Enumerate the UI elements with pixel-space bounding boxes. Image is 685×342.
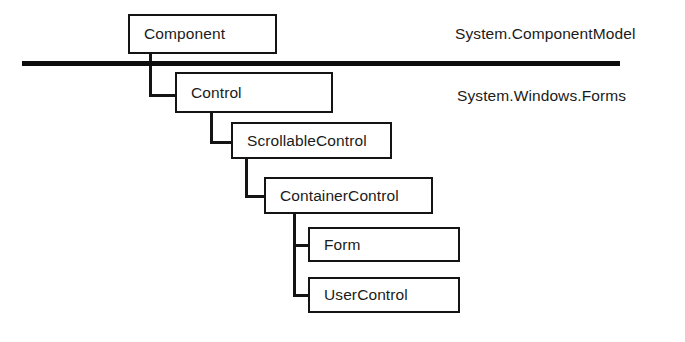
class-label-form: Form (310, 237, 361, 253)
namespace-label-windows-forms: System.Windows.Forms (457, 88, 626, 104)
class-box-control[interactable]: Control (175, 72, 333, 113)
connector-container-to-user-control (294, 245, 308, 295)
class-box-form[interactable]: Form (308, 227, 460, 262)
class-label-component: Component (130, 26, 225, 42)
class-label-container-control: ContainerControl (266, 188, 399, 204)
class-box-container-control[interactable]: ContainerControl (264, 177, 433, 214)
connector-control-to-scrollable-control (211, 113, 231, 142)
class-box-component[interactable]: Component (128, 14, 277, 54)
class-label-control: Control (177, 85, 242, 101)
class-box-user-control[interactable]: UserControl (308, 277, 460, 313)
connector-container-to-form (294, 214, 308, 245)
connector-scrollable-to-container-control (246, 159, 264, 196)
class-box-scrollable-control[interactable]: ScrollableControl (231, 122, 392, 159)
class-label-user-control: UserControl (310, 287, 408, 303)
class-label-scrollable-control: ScrollableControl (233, 133, 367, 149)
class-hierarchy-diagram: Component Control ScrollableControl Cont… (0, 0, 685, 342)
connector-component-to-control (150, 54, 175, 95)
namespace-label-component-model: System.ComponentModel (455, 26, 635, 42)
